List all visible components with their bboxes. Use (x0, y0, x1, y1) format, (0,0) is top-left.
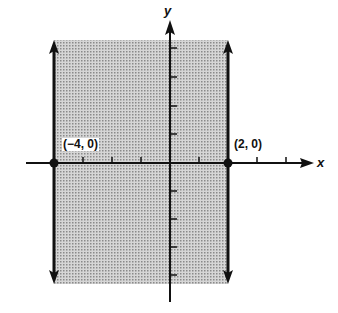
graph-canvas (0, 0, 338, 313)
point-label-right: (2, 0) (233, 138, 263, 151)
point-right (224, 159, 233, 168)
point-left (50, 159, 59, 168)
x-axis-label: x (317, 155, 324, 170)
point-label-left: (−4, 0) (62, 138, 99, 151)
y-axis-label: y (164, 3, 171, 18)
